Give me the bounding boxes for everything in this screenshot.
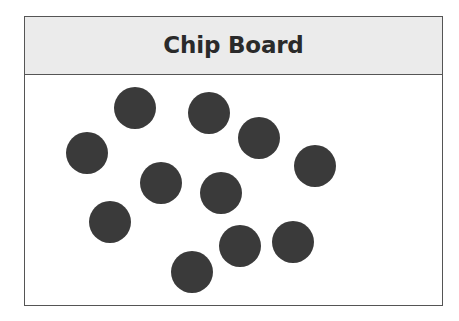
chip-marker[interactable] bbox=[219, 225, 261, 267]
chip-marker[interactable] bbox=[294, 145, 336, 187]
chip-marker[interactable] bbox=[188, 92, 230, 134]
chip-marker[interactable] bbox=[66, 132, 108, 174]
chip-marker[interactable] bbox=[171, 251, 213, 293]
screen-root: Chip Board bbox=[0, 0, 459, 321]
chip-marker[interactable] bbox=[140, 162, 182, 204]
chip-board-panel: Chip Board bbox=[24, 16, 443, 306]
chip-marker[interactable] bbox=[238, 117, 280, 159]
chip-marker[interactable] bbox=[272, 221, 314, 263]
chip-marker[interactable] bbox=[114, 87, 156, 129]
panel-header: Chip Board bbox=[25, 17, 442, 75]
page-title: Chip Board bbox=[163, 34, 303, 57]
chip-canvas[interactable] bbox=[25, 75, 442, 305]
chip-marker[interactable] bbox=[89, 201, 131, 243]
chip-marker[interactable] bbox=[200, 172, 242, 214]
